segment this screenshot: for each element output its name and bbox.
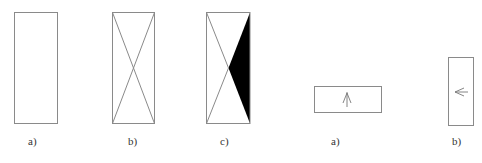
filled-triangle bbox=[229, 13, 251, 124]
panel-right-b bbox=[449, 58, 474, 126]
panel-left-b bbox=[113, 13, 155, 124]
figure-canvas bbox=[0, 0, 482, 163]
label-right-a: a) bbox=[331, 135, 340, 147]
left-arrow-icon bbox=[455, 88, 468, 96]
panel-left-c bbox=[207, 13, 251, 124]
panel-left-a bbox=[15, 13, 58, 124]
up-arrow-icon bbox=[343, 92, 351, 107]
panel-right-a bbox=[315, 87, 382, 113]
label-right-b: b) bbox=[452, 135, 461, 147]
label-left-c: c) bbox=[220, 135, 229, 147]
label-left-a: a) bbox=[28, 135, 37, 147]
label-left-b: b) bbox=[128, 135, 137, 147]
